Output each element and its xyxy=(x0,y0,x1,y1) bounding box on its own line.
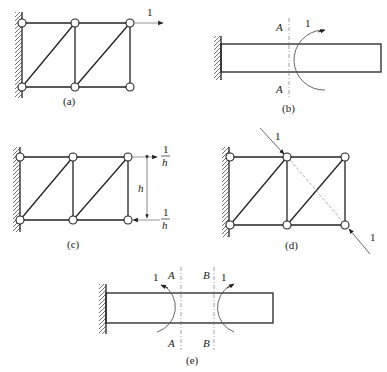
section-label-b-bottom: B xyxy=(203,337,210,349)
moment-left-label: 1 xyxy=(153,271,159,283)
force-label-top: 1 xyxy=(275,130,281,142)
section-label-top: A xyxy=(275,21,283,33)
figure-b-beam: A A 1 (b) xyxy=(214,17,381,115)
section-label-a-bottom: A xyxy=(167,337,175,349)
svg-text:h: h xyxy=(162,156,168,168)
fixed-support-icon xyxy=(99,284,106,334)
figure-caption: (b) xyxy=(282,102,295,115)
beam xyxy=(221,44,381,72)
fixed-support-icon xyxy=(214,36,221,80)
figure-c-truss: h 1 h 1 h (c) xyxy=(13,143,170,251)
section-label-a-top: A xyxy=(167,269,175,281)
svg-text:1: 1 xyxy=(163,206,169,218)
figure-caption: (e) xyxy=(186,354,199,367)
figure-a-truss: 1 (a) xyxy=(15,6,163,108)
truss-nodes xyxy=(18,19,134,91)
moment-right-arrow-icon xyxy=(218,285,234,332)
dimension-h: h xyxy=(138,159,147,218)
force-label: 1 xyxy=(147,6,153,18)
svg-text:1: 1 xyxy=(163,143,169,155)
force-label-top: 1 h xyxy=(161,143,170,168)
figure-caption: (a) xyxy=(63,95,76,108)
svg-text:h: h xyxy=(162,219,168,231)
structural-diagrams: 1 (a) A A 1 (b) xyxy=(0,0,387,372)
beam xyxy=(106,293,273,323)
figure-e-beam: A A B B 1 1 (e) xyxy=(99,267,273,367)
force-label-bottom: 1 h xyxy=(161,206,170,231)
moment-right-label: 1 xyxy=(221,271,227,283)
force-arrow-bottom-icon xyxy=(349,229,370,254)
truss-nodes xyxy=(16,153,132,224)
svg-text:h: h xyxy=(138,182,144,194)
moment-label: 1 xyxy=(305,17,311,29)
figure-caption: (d) xyxy=(285,239,298,252)
figure-caption: (c) xyxy=(67,238,80,251)
figure-d-truss: 1 1 (d) xyxy=(222,128,376,254)
moment-left-arrow-icon xyxy=(157,285,175,332)
section-label-bottom: A xyxy=(275,83,283,95)
section-label-b-top: B xyxy=(203,269,210,281)
moment-arrow-icon xyxy=(294,30,325,90)
force-label-bottom: 1 xyxy=(370,231,376,243)
